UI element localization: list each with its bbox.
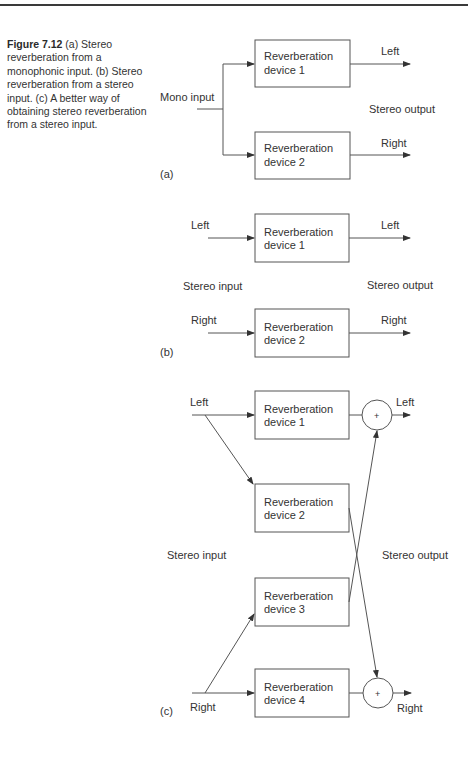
a-panel-label: (a): [160, 168, 173, 180]
c-box-2-line-2: device 2: [264, 509, 305, 521]
b-box-1-line-2: device 1: [264, 239, 305, 251]
a-stereo-output-label: Stereo output: [369, 103, 435, 115]
c-box-3-line-2: device 3: [264, 603, 305, 615]
b-box-1: [255, 214, 349, 262]
c-stereo-output-label: Stereo output: [382, 549, 448, 561]
c-out-right-label: Right: [397, 702, 423, 714]
c-box-4-line-1: Reverberation: [264, 681, 333, 693]
b-out-left-label: Left: [381, 219, 399, 231]
c-box-3-line-1: Reverberation: [264, 590, 333, 602]
c-box-1-line-2: device 1: [264, 416, 305, 428]
b-box-1-line-1: Reverberation: [264, 226, 333, 238]
c-box-4-line-2: device 4: [264, 694, 305, 706]
b-stereo-output-label: Stereo output: [367, 279, 433, 291]
a-box-1-line-2: device 1: [264, 64, 305, 76]
reverberation-diagram: Reverberation device 1 Reverberation dev…: [0, 0, 468, 757]
b-in-left-label: Left: [191, 219, 209, 231]
b-in-right-label: Right: [191, 314, 217, 326]
a-box-2-line-2: device 2: [264, 156, 305, 168]
b-box-2-line-2: device 2: [264, 334, 305, 346]
c-box-1: [255, 391, 349, 439]
sum-symbol-left: +: [374, 411, 379, 421]
a-mono-input-label: Mono input: [160, 91, 214, 103]
b-box-2: [255, 309, 349, 357]
b-box-2-line-1: Reverberation: [264, 321, 333, 333]
c-panel-label: (c): [160, 705, 173, 717]
c-box-4: [255, 669, 349, 717]
c-out-left-label: Left: [396, 396, 414, 408]
a-out-left-label: Left: [381, 45, 399, 57]
c-in-left-label: Left: [190, 396, 208, 408]
c-box-2-line-1: Reverberation: [264, 496, 333, 508]
c-in-right-label: Right: [190, 701, 216, 713]
b-panel-label: (b): [160, 346, 173, 358]
c-stereo-input-label: Stereo input: [167, 549, 226, 561]
c-box-1-line-1: Reverberation: [264, 403, 333, 415]
a-out-right-label: Right: [381, 137, 407, 149]
b-stereo-input-label: Stereo input: [183, 280, 242, 292]
a-box-1-line-1: Reverberation: [264, 50, 333, 62]
c-box-3: [255, 578, 349, 626]
b-out-right-label: Right: [381, 314, 407, 326]
sum-symbol-right: +: [375, 689, 380, 699]
a-box-2-line-1: Reverberation: [264, 142, 333, 154]
c-box-2: [255, 484, 349, 532]
